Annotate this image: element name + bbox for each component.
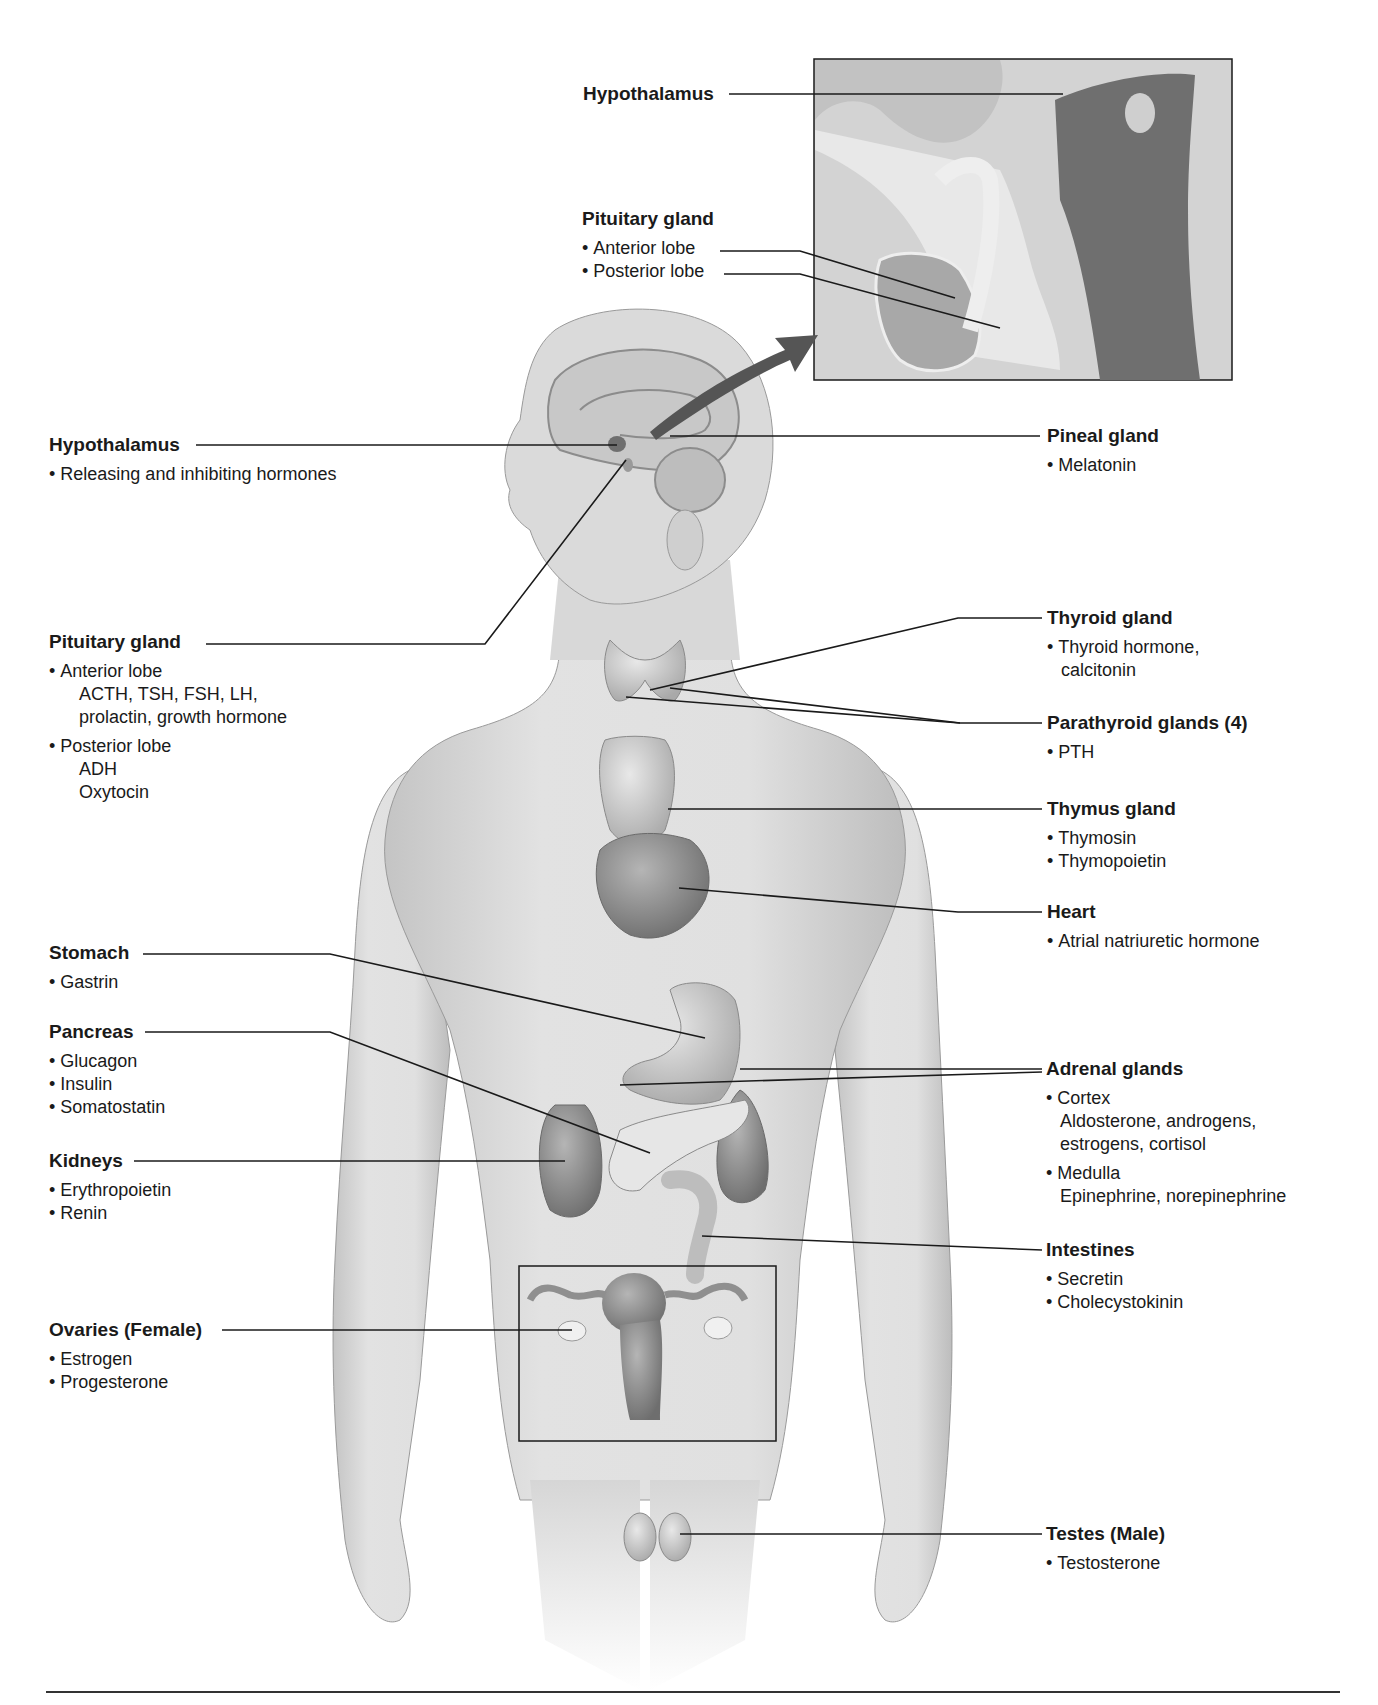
thymus-item: Thymosin	[1047, 827, 1176, 850]
ovaries-item: Estrogen	[49, 1348, 202, 1371]
thymus-item: Thymopoietin	[1047, 850, 1176, 873]
label-hypothalamus: Hypothalamus Releasing and inhibiting ho…	[49, 433, 337, 486]
thyroid-line: Thyroid hormone,	[1047, 636, 1199, 659]
adrenal-medulla-label: Medulla	[1046, 1162, 1286, 1185]
thyroid-title: Thyroid gland	[1047, 606, 1199, 630]
label-adrenal: Adrenal glands Cortex Aldosterone, andro…	[1046, 1057, 1286, 1208]
pituitary-anterior-line: ACTH, TSH, FSH, LH,	[49, 683, 287, 706]
label-thymus: Thymus gland Thymosin Thymopoietin	[1047, 797, 1176, 873]
intestines-title: Intestines	[1046, 1238, 1183, 1262]
pituitary-inset	[814, 59, 1232, 380]
pancreas-item: Glucagon	[49, 1050, 165, 1073]
inset-pituitary-title: Pituitary gland	[582, 207, 714, 231]
label-intestines: Intestines Secretin Cholecystokinin	[1046, 1238, 1183, 1314]
pancreas-item: Insulin	[49, 1073, 165, 1096]
pancreas-item: Somatostatin	[49, 1096, 165, 1119]
testes-item: Testosterone	[1046, 1552, 1165, 1575]
stomach-item: Gastrin	[49, 971, 129, 994]
label-parathyroid: Parathyroid glands (4) PTH	[1047, 711, 1248, 764]
thymus-title: Thymus gland	[1047, 797, 1176, 821]
body-silhouette	[333, 309, 952, 1690]
hypothalamus-title: Hypothalamus	[49, 433, 337, 457]
label-ovaries: Ovaries (Female) Estrogen Progesterone	[49, 1318, 202, 1394]
label-pineal: Pineal gland Melatonin	[1047, 424, 1159, 477]
label-heart: Heart Atrial natriuretic hormone	[1047, 900, 1259, 953]
stomach-title: Stomach	[49, 941, 129, 965]
pituitary-posterior-line: ADH	[49, 758, 287, 781]
kidneys-item: Erythropoietin	[49, 1179, 171, 1202]
inset-hypothalamus-title: Hypothalamus	[583, 82, 714, 106]
inset-pituitary-label: Pituitary gland Anterior lobe Posterior …	[582, 207, 714, 283]
label-stomach: Stomach Gastrin	[49, 941, 129, 994]
inset-posterior-lobe: Posterior lobe	[582, 260, 714, 283]
testes-title: Testes (Male)	[1046, 1522, 1165, 1546]
label-kidneys: Kidneys Erythropoietin Renin	[49, 1149, 171, 1225]
intestines-item: Cholecystokinin	[1046, 1291, 1183, 1314]
kidneys-title: Kidneys	[49, 1149, 171, 1173]
label-testes: Testes (Male) Testosterone	[1046, 1522, 1165, 1575]
adrenal-cortex-line: estrogens, cortisol	[1046, 1133, 1286, 1156]
pituitary-title: Pituitary gland	[49, 630, 287, 654]
intestines-item: Secretin	[1046, 1268, 1183, 1291]
label-pancreas: Pancreas Glucagon Insulin Somatostatin	[49, 1020, 165, 1119]
pituitary-anterior-label: Anterior lobe	[49, 660, 287, 683]
inset-anterior-lobe: Anterior lobe	[582, 237, 714, 260]
thymus-organ	[600, 736, 675, 845]
thyroid-line: calcitonin	[1047, 659, 1199, 682]
ovaries-title: Ovaries (Female)	[49, 1318, 202, 1342]
inset-hypothalamus-label: Hypothalamus	[583, 82, 714, 106]
heart-title: Heart	[1047, 900, 1259, 924]
kidneys-item: Renin	[49, 1202, 171, 1225]
label-thyroid: Thyroid gland Thyroid hormone, calcitoni…	[1047, 606, 1199, 682]
pineal-title: Pineal gland	[1047, 424, 1159, 448]
adrenal-cortex-line: Aldosterone, androgens,	[1046, 1110, 1286, 1133]
label-pituitary: Pituitary gland Anterior lobe ACTH, TSH,…	[49, 630, 287, 804]
heart-item: Atrial natriuretic hormone	[1047, 930, 1259, 953]
adrenal-title: Adrenal glands	[1046, 1057, 1286, 1081]
pituitary-posterior-line: Oxytocin	[49, 781, 287, 804]
parathyroid-item: PTH	[1047, 741, 1248, 764]
pancreas-title: Pancreas	[49, 1020, 165, 1044]
adrenal-cortex-label: Cortex	[1046, 1087, 1286, 1110]
parathyroid-title: Parathyroid glands (4)	[1047, 711, 1248, 735]
pineal-item: Melatonin	[1047, 454, 1159, 477]
ovaries-item: Progesterone	[49, 1371, 202, 1394]
adrenal-medulla-line: Epinephrine, norepinephrine	[1046, 1185, 1286, 1208]
hypothalamus-item: Releasing and inhibiting hormones	[49, 463, 337, 486]
pituitary-anterior-line: prolactin, growth hormone	[49, 706, 287, 729]
pituitary-posterior-label: Posterior lobe	[49, 735, 287, 758]
